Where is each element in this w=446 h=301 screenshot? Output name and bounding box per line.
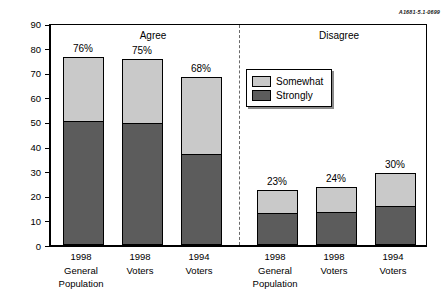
- x-category-line: 1998: [59, 250, 104, 264]
- x-category-line: General: [59, 264, 104, 278]
- y-tick-label: 20: [13, 191, 41, 203]
- bar-value-label: 30%: [385, 159, 405, 170]
- x-category-line: General: [253, 264, 298, 278]
- plot-inner: Percentage 0102030405060708090 AgreeDisa…: [51, 25, 426, 245]
- x-category-line: 1994: [380, 250, 407, 264]
- group-divider-line: [239, 25, 240, 245]
- bar-segment-somewhat[interactable]: [316, 187, 357, 213]
- legend-item-somewhat[interactable]: Somewhat: [252, 74, 323, 88]
- bar-segment-strongly[interactable]: [316, 212, 357, 245]
- y-tick-label: 80: [13, 44, 41, 56]
- bar-3[interactable]: 68%: [181, 78, 222, 245]
- figure-id-code: A1681-5.1-0699: [399, 9, 440, 15]
- bar-segment-strongly[interactable]: [375, 206, 416, 245]
- y-tick-mark: [45, 172, 51, 173]
- chart-figure: A1681-5.1-0699 Percentage 01020304050607…: [0, 0, 446, 301]
- x-category-label-2: 1998Voters: [127, 250, 154, 277]
- legend-swatch-somewhat: [252, 76, 271, 87]
- group-header-agree: Agree: [140, 30, 167, 41]
- x-category-label-1: 1998GeneralPopulation: [59, 250, 104, 291]
- bar-segment-somewhat[interactable]: [122, 59, 163, 124]
- bar-segment-strongly[interactable]: [122, 123, 163, 245]
- bar-value-label: 75%: [132, 45, 152, 56]
- bar-segment-strongly[interactable]: [181, 154, 222, 245]
- y-tick-mark: [45, 123, 51, 124]
- y-tick-label: 10: [13, 216, 41, 228]
- chart-legend: SomewhatStrongly: [246, 69, 332, 107]
- y-tick-mark: [45, 74, 51, 75]
- bar-value-label: 68%: [191, 63, 211, 74]
- x-category-line: Population: [59, 277, 104, 291]
- y-tick-mark: [45, 197, 51, 198]
- bar-1[interactable]: 76%: [63, 58, 104, 245]
- bar-4[interactable]: 23%: [257, 191, 298, 245]
- bar-segment-somewhat[interactable]: [257, 190, 298, 214]
- y-tick-mark: [45, 246, 51, 247]
- y-tick-mark: [45, 49, 51, 50]
- x-category-line: Voters: [186, 264, 213, 278]
- group-header-disagree: Disagree: [319, 30, 359, 41]
- y-tick-label: 90: [13, 19, 41, 31]
- y-tick-mark: [45, 25, 51, 26]
- y-tick-label: 30: [13, 167, 41, 179]
- bar-value-label: 23%: [267, 176, 287, 187]
- x-category-line: 1994: [186, 250, 213, 264]
- bar-value-label: 24%: [326, 173, 346, 184]
- x-category-line: Voters: [380, 264, 407, 278]
- bar-segment-somewhat[interactable]: [63, 57, 104, 122]
- y-tick-label: 60: [13, 93, 41, 105]
- bar-value-label: 76%: [73, 43, 93, 54]
- bar-segment-somewhat[interactable]: [181, 77, 222, 156]
- y-tick-label: 70: [13, 68, 41, 80]
- y-tick-mark: [45, 221, 51, 222]
- plot-area: Percentage 0102030405060708090 AgreeDisa…: [49, 24, 427, 247]
- x-category-line: Voters: [127, 264, 154, 278]
- x-category-line: Population: [253, 277, 298, 291]
- bar-5[interactable]: 24%: [316, 188, 357, 245]
- legend-label: Strongly: [276, 90, 313, 101]
- y-tick-mark: [45, 98, 51, 99]
- x-category-label-5: 1998Voters: [321, 250, 348, 277]
- y-tick-label: 50: [13, 117, 41, 129]
- y-tick-label: 40: [13, 142, 41, 154]
- x-category-line: 1998: [127, 250, 154, 264]
- legend-label: Somewhat: [276, 76, 323, 87]
- bar-segment-strongly[interactable]: [257, 213, 298, 245]
- bar-segment-somewhat[interactable]: [375, 173, 416, 207]
- legend-swatch-strongly: [252, 90, 271, 101]
- x-category-label-4: 1998GeneralPopulation: [253, 250, 298, 291]
- bar-2[interactable]: 75%: [122, 60, 163, 245]
- bar-segment-strongly[interactable]: [63, 121, 104, 245]
- x-category-line: 1998: [321, 250, 348, 264]
- x-category-label-3: 1994Voters: [186, 250, 213, 277]
- x-category-label-6: 1994Voters: [380, 250, 407, 277]
- y-tick-label: 0: [13, 241, 41, 253]
- x-category-line: 1998: [253, 250, 298, 264]
- bar-6[interactable]: 30%: [375, 174, 416, 245]
- legend-item-strongly[interactable]: Strongly: [252, 88, 323, 102]
- x-category-line: Voters: [321, 264, 348, 278]
- y-tick-mark: [45, 148, 51, 149]
